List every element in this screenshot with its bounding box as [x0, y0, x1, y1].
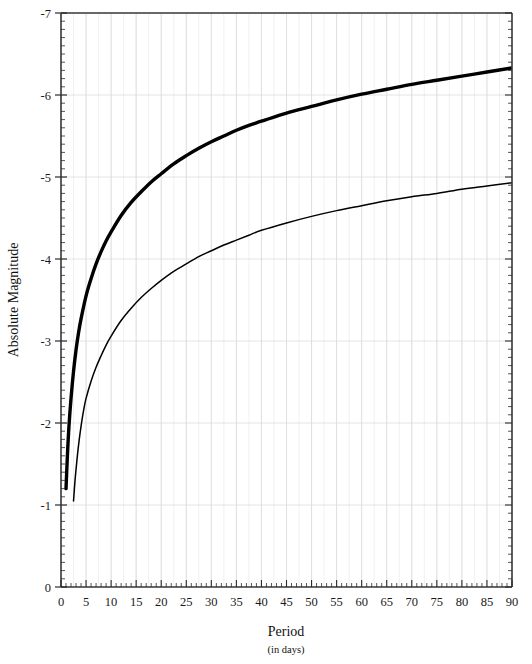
x-tick-label: 0 — [58, 595, 64, 609]
x-tick-label: 90 — [506, 595, 519, 609]
y-tick-label: -6 — [41, 89, 51, 103]
y-tick-label: -7 — [41, 7, 51, 21]
x-tick-label: 55 — [330, 595, 343, 609]
y-tick-label: -5 — [41, 171, 51, 185]
y-tick-label: -2 — [41, 417, 51, 431]
y-tick-label: -4 — [41, 253, 52, 267]
x-tick-label: 35 — [230, 595, 243, 609]
x-tick-label: 5 — [83, 595, 89, 609]
y-tick-label: 0 — [45, 581, 51, 595]
x-tick-label: 20 — [155, 595, 168, 609]
x-tick-label: 40 — [255, 595, 268, 609]
x-tick-label: 60 — [355, 595, 368, 609]
chart-container: 051015202530354045505560657075808590 0-1… — [0, 0, 532, 664]
x-tick-label: 70 — [406, 595, 419, 609]
x-tick-label: 85 — [481, 595, 494, 609]
x-tick-label: 45 — [280, 595, 293, 609]
x-tick-label: 10 — [105, 595, 118, 609]
period-luminosity-chart: 051015202530354045505560657075808590 0-1… — [0, 0, 532, 664]
x-tick-label: 80 — [456, 595, 469, 609]
y-tick-label: -3 — [41, 335, 51, 349]
x-tick-label: 75 — [431, 595, 444, 609]
x-tick-label: 25 — [180, 595, 193, 609]
y-tick-label: -1 — [41, 499, 51, 513]
x-axis-subtitle: (in days) — [267, 644, 305, 656]
x-tick-label: 50 — [305, 595, 318, 609]
x-tick-label: 30 — [205, 595, 218, 609]
x-axis-title: Period — [268, 624, 305, 639]
y-axis-title: Absolute Magnitude — [6, 243, 21, 358]
x-tick-label: 65 — [380, 595, 393, 609]
x-tick-label: 15 — [130, 595, 143, 609]
